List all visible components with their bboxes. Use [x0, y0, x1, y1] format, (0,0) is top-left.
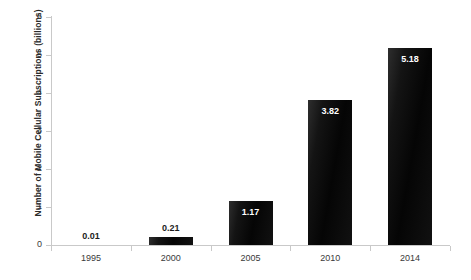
- y-axis-line: [51, 16, 52, 246]
- bar: [149, 237, 193, 245]
- y-tick-label: 6: [12, 12, 42, 21]
- y-tick-mark: [46, 55, 51, 56]
- x-tick-label: 1995: [56, 254, 126, 263]
- bar: [388, 48, 432, 245]
- y-tick-label: 5: [12, 50, 42, 59]
- y-tick-label: 2: [12, 164, 42, 173]
- y-axis-title: Number of Mobile Cellular Subscriptions …: [33, 0, 43, 233]
- x-tick-mark: [370, 246, 371, 251]
- bar-value-label: 5.18: [375, 55, 445, 64]
- bar-value-label: 1.17: [216, 208, 286, 217]
- x-axis-line: [51, 245, 450, 246]
- x-tick-label: 2010: [295, 254, 365, 263]
- y-tick-mark: [46, 17, 51, 18]
- y-tick-label: 4: [12, 88, 42, 97]
- x-tick-mark: [51, 246, 52, 251]
- y-tick-mark: [46, 169, 51, 170]
- y-tick-label: 1: [12, 202, 42, 211]
- y-tick-label: 3: [12, 126, 42, 135]
- x-tick-mark: [450, 246, 451, 251]
- y-tick-mark: [46, 131, 51, 132]
- x-tick-label: 2014: [375, 254, 445, 263]
- x-tick-mark: [131, 246, 132, 251]
- bar-chart: Number of Mobile Cellular Subscriptions …: [0, 0, 471, 280]
- bar-value-label: 0.21: [136, 224, 206, 233]
- x-tick-label: 2000: [136, 254, 206, 263]
- bar-value-label: 3.82: [295, 107, 365, 116]
- y-tick-mark: [46, 93, 51, 94]
- x-tick-label: 2005: [216, 254, 286, 263]
- y-tick-label: 0: [12, 240, 42, 249]
- x-tick-mark: [290, 246, 291, 251]
- bar-value-label: 0.01: [56, 232, 126, 241]
- x-tick-mark: [211, 246, 212, 251]
- bar: [308, 100, 352, 245]
- y-tick-mark: [46, 207, 51, 208]
